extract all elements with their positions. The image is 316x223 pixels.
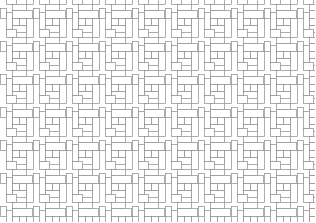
pattern-tile (112, 137, 126, 143)
pattern-tile (310, 137, 316, 143)
pattern-tile (7, 46, 13, 63)
pattern-tile (126, 52, 133, 71)
pattern-tile (291, 19, 298, 38)
pattern-tile (27, 118, 34, 137)
pattern-tile (211, 52, 218, 59)
pattern-tile (46, 143, 66, 151)
pattern-tile (145, 217, 152, 223)
pattern-tile (13, 5, 27, 11)
pattern-tile (112, 104, 126, 110)
pattern-tile (119, 184, 126, 191)
pattern-tile (13, 19, 20, 26)
pattern-tile (13, 110, 33, 118)
pattern-tile (218, 19, 225, 26)
pattern-tile (13, 176, 33, 184)
pattern-tile (277, 137, 291, 143)
pattern-tile (106, 211, 112, 223)
pattern-tile (13, 203, 27, 209)
pattern-tile (145, 5, 159, 11)
pattern-tile (73, 162, 83, 170)
pattern-tile (291, 217, 298, 223)
pattern-tile (40, 112, 46, 129)
pattern-tile (192, 118, 199, 137)
pattern-tile (152, 85, 159, 92)
pattern-tile (112, 143, 132, 151)
pattern-tile (79, 104, 93, 110)
pattern-tile (298, 174, 304, 184)
pattern-tile (1, 75, 7, 85)
pattern-tile (1, 207, 7, 217)
pattern-tile (106, 13, 112, 30)
pattern-tile (244, 85, 251, 92)
pattern-tile (205, 13, 211, 30)
pattern-tile (112, 184, 119, 191)
pattern-tile (20, 118, 27, 125)
pattern-tile (271, 30, 281, 38)
pattern-tile (178, 5, 192, 11)
pattern-tile (244, 44, 264, 52)
pattern-tile (310, 170, 316, 176)
pattern-tile (93, 52, 100, 71)
pattern-tile (133, 9, 139, 19)
pattern-tile (166, 141, 172, 151)
pattern-tile (139, 195, 149, 203)
pattern-tile (310, 85, 316, 92)
pattern-tile (139, 30, 149, 38)
pattern-tile (178, 19, 185, 26)
pattern-tile (119, 151, 126, 158)
pattern-tile (211, 44, 231, 52)
pattern-tile (145, 44, 165, 52)
pattern-tile (112, 5, 126, 11)
pattern-tile (60, 151, 67, 170)
pattern-tile (79, 52, 86, 59)
pattern-tile (298, 9, 304, 19)
pattern-tile (277, 184, 284, 191)
pattern-tile (284, 19, 291, 26)
pattern-tile (166, 207, 172, 217)
pattern-tile (211, 209, 231, 217)
pattern-tile (112, 19, 119, 26)
pattern-tile (265, 207, 271, 217)
pattern-tile (100, 75, 106, 85)
pattern-tile (13, 104, 27, 110)
pattern-tile (112, 71, 126, 77)
pattern-tile (172, 112, 178, 129)
pattern-tile (133, 141, 139, 151)
pattern-tile (310, 11, 316, 19)
pattern-tile (211, 19, 218, 26)
pattern-tile (7, 145, 13, 162)
pattern-tile (145, 184, 152, 191)
pattern-tile (251, 184, 258, 191)
pattern-tile (7, 211, 13, 223)
pattern-tile (185, 85, 192, 92)
pattern-tile (79, 38, 93, 44)
pattern-tile (20, 184, 27, 191)
pattern-tile (126, 118, 133, 137)
pattern-tile (310, 104, 316, 110)
pattern-tile (310, 71, 316, 77)
pattern-tile (46, 176, 66, 184)
pattern-tile (139, 162, 149, 170)
pattern-tile (251, 217, 258, 223)
pattern-tile (139, 13, 145, 30)
pattern-tile (271, 195, 281, 203)
pattern-tile (172, 63, 182, 71)
pattern-tile (46, 110, 66, 118)
pattern-tile (291, 52, 298, 71)
pattern-tile (7, 79, 13, 96)
pattern-tile (244, 137, 258, 143)
pattern-tile (40, 30, 50, 38)
pattern-tile (73, 211, 79, 223)
pattern-tile (60, 85, 67, 104)
pattern-tile (106, 0, 116, 5)
pattern-tile (79, 137, 93, 143)
pattern-tile (13, 184, 20, 191)
pattern-tile (73, 112, 79, 129)
pattern-tile (199, 207, 205, 217)
pattern-tile (178, 137, 192, 143)
pattern-tile (277, 170, 291, 176)
pattern-tile (304, 112, 310, 129)
pattern-tile (13, 118, 20, 125)
pattern-tile (152, 118, 159, 125)
pattern-tile (199, 141, 205, 151)
